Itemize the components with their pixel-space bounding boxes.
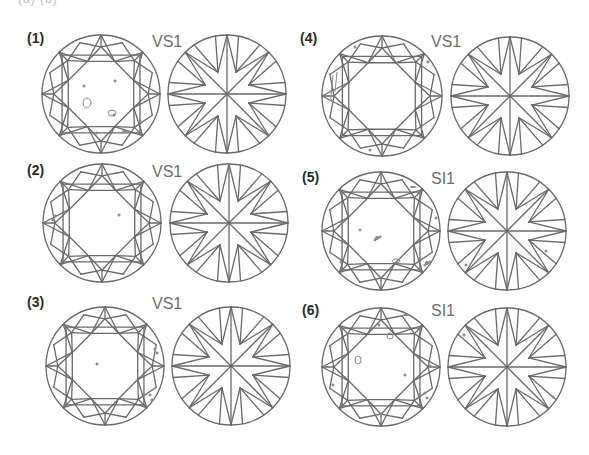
panel-number-label: (6): [302, 303, 319, 317]
inclusion-dot: [332, 384, 334, 386]
inclusion-dot: [96, 132, 98, 134]
pavilion-view-1: [168, 35, 286, 153]
inclusions-2: [52, 214, 120, 221]
panel-number-label: (1): [27, 31, 44, 45]
inclusion-dot: [54, 215, 56, 217]
inclusion-dot: [552, 396, 554, 398]
panel-number-label: (2): [27, 163, 44, 177]
clarity-grade-label: VS1: [152, 34, 182, 50]
crown-view-2: [43, 164, 161, 282]
inclusion-feather: [431, 95, 436, 97]
pavilion-view-4: [451, 37, 569, 155]
inclusion-dot: [429, 365, 431, 367]
inclusion-dot: [83, 85, 85, 87]
inclusion-crystal: [83, 98, 91, 108]
inclusion-dot: [139, 120, 141, 122]
inclusion-dot: [545, 250, 547, 252]
inclusion-dot: [404, 374, 406, 376]
inclusion-dot: [151, 399, 153, 401]
inclusion-cluster: [424, 264, 426, 266]
inclusion-dot: [424, 392, 426, 394]
inclusion-feather: [123, 130, 128, 132]
inclusion-dot: [369, 149, 371, 151]
clarity-grade-label: VS1: [431, 34, 461, 50]
inclusion-dot: [118, 214, 120, 216]
crown-view-6: [322, 308, 440, 426]
inclusions-1: [83, 80, 141, 134]
inclusion-dot: [426, 397, 428, 399]
inclusion-dot: [465, 264, 467, 266]
inclusion-dot: [427, 61, 429, 63]
clarity-grade-label: SI1: [431, 171, 455, 187]
clarity-grade-label: SI1: [431, 303, 455, 319]
inclusion-dot: [378, 324, 380, 326]
pavilion-view-6: [448, 308, 566, 426]
inclusion-dot: [96, 363, 98, 365]
inclusion-dot: [463, 334, 465, 336]
inclusion-dot: [380, 413, 382, 415]
clarity-grade-label: VS1: [152, 296, 182, 312]
inclusion-dot: [435, 217, 437, 219]
inclusion-dot: [156, 352, 158, 354]
inclusion-crystal: [355, 356, 361, 364]
inclusion-cluster: [374, 239, 376, 241]
inclusion-dot: [149, 394, 151, 396]
panel-number-label: (4): [300, 31, 317, 45]
crown-view-1: [42, 35, 160, 153]
pavilion-view-3: [172, 307, 290, 425]
inclusion-dot: [340, 261, 342, 263]
pavilion-view-2: [170, 164, 288, 282]
clarity-grade-label: VS1: [152, 164, 182, 180]
inclusion-dot: [114, 80, 116, 82]
inclusion-dot: [154, 348, 156, 350]
panel-number-label: (3): [27, 295, 44, 309]
inclusion-dot: [354, 46, 356, 48]
crown-view-3: [46, 307, 164, 425]
inclusion-dot: [113, 114, 115, 116]
inclusion-feather: [411, 186, 416, 188]
inclusion-dot: [340, 221, 342, 223]
inclusion-cluster: [429, 261, 431, 263]
crown-view-5: [322, 172, 440, 290]
inclusion-dot: [359, 229, 361, 231]
diamond-plot-figure: [0, 0, 589, 455]
panel-number-label: (5): [302, 170, 319, 184]
inclusion-feather: [404, 314, 409, 316]
crown-view-4: [322, 36, 442, 156]
pavilion-view-5: [448, 172, 566, 290]
inclusion-cluster: [379, 236, 381, 238]
inclusion-dot: [52, 219, 54, 221]
